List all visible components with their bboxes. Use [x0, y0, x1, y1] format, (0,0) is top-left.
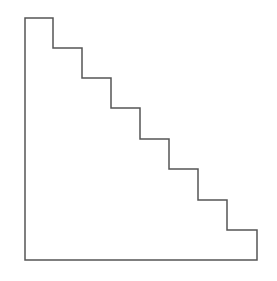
staircase-diagram — [0, 0, 277, 281]
staircase-outline — [25, 18, 257, 260]
